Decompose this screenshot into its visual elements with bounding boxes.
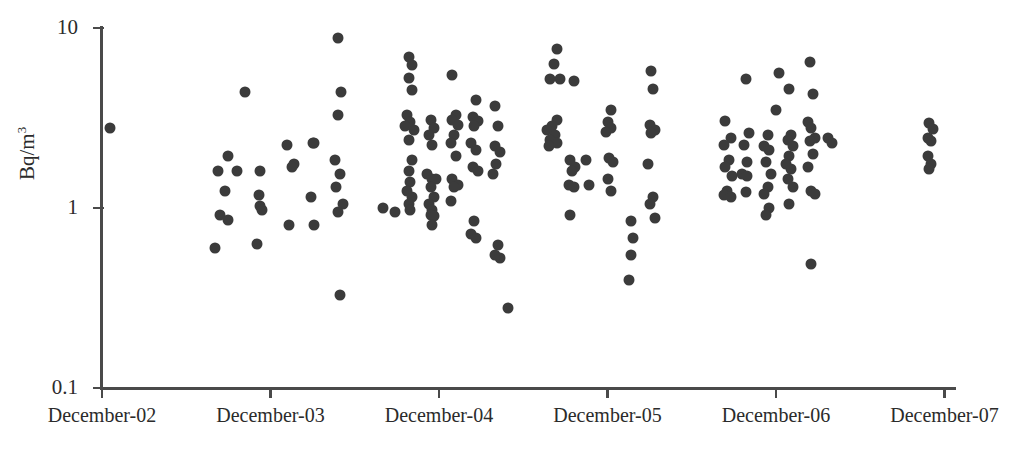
scatter-point	[600, 126, 611, 137]
scatter-point	[543, 141, 554, 152]
scatter-point	[565, 209, 576, 220]
scatter-point	[336, 87, 347, 98]
scatter-point	[407, 154, 418, 165]
scatter-point	[806, 122, 817, 133]
scatter-point	[607, 157, 618, 168]
scatter-point	[738, 139, 749, 150]
scatter-point	[487, 168, 498, 179]
scatter-point	[255, 166, 266, 177]
scatter-point	[447, 69, 458, 80]
scatter-point	[331, 182, 342, 193]
scatter-point	[445, 195, 456, 206]
scatter-point	[742, 171, 753, 182]
scatter-point	[223, 214, 234, 225]
scatter-point	[760, 157, 771, 168]
scatter-point	[284, 220, 295, 231]
scatter-point	[471, 145, 482, 156]
scatter-point	[287, 161, 298, 172]
scatter-point	[472, 166, 483, 177]
scatter-point	[449, 182, 460, 193]
scatter-point	[740, 187, 751, 198]
scatter-point	[403, 134, 414, 145]
scatter-point	[764, 145, 775, 156]
scatter-point	[646, 65, 657, 76]
scatter-point	[718, 139, 729, 150]
scatter-point	[305, 192, 316, 203]
scatter-point	[494, 252, 505, 263]
scatter-point	[649, 212, 660, 223]
scatter-point	[450, 150, 461, 161]
scatter-point	[257, 205, 268, 216]
scatter-point	[445, 137, 456, 148]
scatter-point	[567, 166, 578, 177]
scatter-point	[231, 166, 242, 177]
scatter-point	[403, 72, 414, 83]
scatter-point	[926, 136, 937, 147]
scatter-point	[403, 166, 414, 177]
scatter-point	[647, 83, 658, 94]
scatter-point	[804, 56, 815, 67]
scatter-point	[427, 220, 438, 231]
scatter-point	[744, 128, 755, 139]
scatter-point	[332, 109, 343, 120]
scatter-plot-area	[0, 0, 1017, 454]
scatter-point	[742, 157, 753, 168]
scatter-point	[332, 32, 343, 43]
scatter-point	[551, 44, 562, 55]
scatter-point	[334, 289, 345, 300]
scatter-point	[309, 137, 320, 148]
scatter-point	[602, 173, 613, 184]
scatter-point	[503, 302, 514, 313]
scatter-point	[489, 100, 500, 111]
scatter-point	[213, 166, 224, 177]
scatter-point	[809, 188, 820, 199]
scatter-point	[808, 88, 819, 99]
chart-canvas: Bq/m3 1010.1 December-02December-03Decem…	[0, 0, 1017, 454]
scatter-point	[282, 139, 293, 150]
scatter-point	[390, 207, 401, 218]
scatter-point	[760, 209, 771, 220]
scatter-point	[642, 159, 653, 170]
scatter-point	[471, 94, 482, 105]
scatter-point	[808, 148, 819, 159]
scatter-point	[105, 122, 116, 133]
scatter-point	[240, 87, 251, 98]
scatter-point	[774, 68, 785, 79]
scatter-point	[223, 150, 234, 161]
scatter-point	[378, 203, 389, 214]
scatter-point	[644, 199, 655, 210]
scatter-point	[626, 215, 637, 226]
scatter-point	[407, 60, 418, 71]
scatter-point	[209, 242, 220, 253]
scatter-point	[253, 190, 264, 201]
scatter-point	[332, 207, 343, 218]
scatter-point	[407, 85, 418, 96]
scatter-point	[555, 74, 566, 85]
scatter-point	[492, 121, 503, 132]
scatter-point	[469, 121, 480, 132]
scatter-point	[806, 258, 817, 269]
scatter-point	[568, 182, 579, 193]
scatter-point	[720, 115, 731, 126]
scatter-point	[626, 249, 637, 260]
scatter-point	[725, 192, 736, 203]
scatter-point	[740, 74, 751, 85]
scatter-point	[924, 163, 935, 174]
scatter-point	[309, 220, 320, 231]
scatter-point	[580, 154, 591, 165]
scatter-point	[762, 129, 773, 140]
scatter-point	[405, 204, 416, 215]
scatter-point	[624, 274, 635, 285]
scatter-point	[469, 215, 480, 226]
scatter-point	[583, 179, 594, 190]
scatter-point	[605, 105, 616, 116]
scatter-point	[605, 185, 616, 196]
scatter-point	[220, 185, 231, 196]
scatter-point	[252, 239, 263, 250]
scatter-point	[784, 199, 795, 210]
scatter-point	[548, 59, 559, 70]
scatter-point	[787, 182, 798, 193]
scatter-point	[784, 83, 795, 94]
scatter-point	[471, 233, 482, 244]
scatter-point	[568, 75, 579, 86]
